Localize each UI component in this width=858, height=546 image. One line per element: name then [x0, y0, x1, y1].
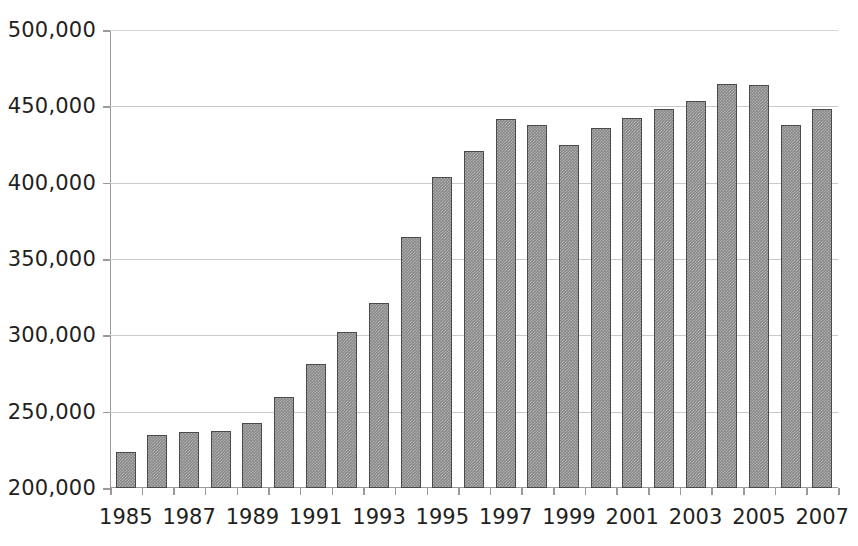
x-tick-label-1999: 1999: [542, 505, 595, 529]
x-tick-label-2003: 2003: [669, 505, 722, 529]
x-tick-label-1995: 1995: [416, 505, 469, 529]
x-tick-label-2007: 2007: [795, 505, 848, 529]
x-axis-labels: 1985198719891991199319951997199920012003…: [0, 0, 858, 546]
x-tick-label-1985: 1985: [99, 505, 152, 529]
x-tick-label-1991: 1991: [289, 505, 342, 529]
x-tick-label-1997: 1997: [479, 505, 532, 529]
x-tick-label-1989: 1989: [226, 505, 279, 529]
x-tick-label-2005: 2005: [732, 505, 785, 529]
bar-chart: 500,000450,000400,000350,000300,000250,0…: [0, 0, 858, 546]
x-tick-label-2001: 2001: [606, 505, 659, 529]
x-tick-label-1993: 1993: [352, 505, 405, 529]
x-tick-label-1987: 1987: [162, 505, 215, 529]
